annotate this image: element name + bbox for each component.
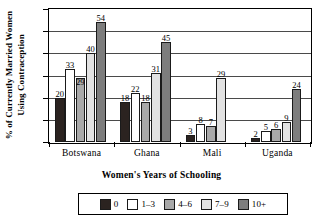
bar-value-label: 3 (188, 127, 192, 136)
legend-item[interactable]: 7–9 (201, 199, 229, 210)
bar: 8 (196, 124, 206, 142)
legend-swatch (164, 199, 175, 210)
x-tick-mark (180, 142, 181, 147)
legend-swatch (100, 199, 111, 210)
bar: 20 (55, 98, 65, 142)
legend-label: 10+ (252, 199, 266, 209)
bar-chart-figure: % of Currently Married Women Using Contr… (0, 0, 323, 223)
legend-swatch (201, 199, 212, 210)
bar: 54 (96, 22, 106, 142)
bar: 24 (292, 89, 302, 142)
legend-swatch (127, 199, 138, 210)
y-axis-title-line-2: Using Contraception (15, 11, 27, 139)
x-category-label: Botswana (62, 148, 101, 158)
bar-value-label: 18 (141, 94, 150, 103)
bar: 29 (76, 78, 86, 142)
x-tick-mark (245, 142, 246, 147)
legend-label: 0 (114, 199, 119, 209)
legend-item[interactable]: 10+ (238, 199, 266, 210)
bar: 31 (151, 73, 161, 142)
bar-value-label: 31 (152, 65, 161, 74)
bar: 9 (282, 122, 292, 142)
bar-value-label: 45 (162, 34, 171, 43)
bar: 29 (216, 78, 226, 142)
bar-group: 2033294054 (55, 9, 106, 142)
bar-value-label: 29 (76, 78, 85, 87)
legend-label: 7–9 (215, 199, 229, 209)
bar-value-label: 29 (217, 70, 226, 79)
bar-value-label: 40 (86, 45, 95, 54)
bars-layer: 2033294054182218314538729256924 (49, 9, 310, 142)
bar: 5 (261, 131, 271, 142)
bar: 6 (271, 129, 281, 142)
legend-item[interactable]: 0 (100, 199, 119, 210)
legend-label: 4–6 (178, 199, 192, 209)
bar-value-label: 2 (253, 130, 257, 139)
bar-value-label: 54 (97, 14, 106, 23)
legend: 01–34–67–910+ (78, 193, 288, 215)
bar: 2 (251, 138, 261, 142)
bar: 18 (141, 102, 151, 142)
x-tick-mark (114, 142, 115, 147)
legend-item[interactable]: 4–6 (164, 199, 192, 210)
x-category-label: Mali (203, 148, 222, 158)
legend-item[interactable]: 1–3 (127, 199, 155, 210)
bar: 22 (131, 93, 141, 142)
bar: 3 (186, 135, 196, 142)
legend-swatch (238, 199, 249, 210)
bar: 45 (161, 42, 171, 142)
bar-group: 256924 (251, 9, 302, 142)
bar-value-label: 6 (274, 121, 278, 130)
bar-value-label: 33 (66, 61, 75, 70)
bar-value-label: 5 (264, 123, 268, 132)
bar: 7 (206, 126, 216, 142)
x-category-label: Ghana (134, 148, 160, 158)
x-tick-mark (310, 142, 311, 147)
y-axis-title: % of Currently Married Women Using Contr… (0, 0, 30, 150)
bar-value-label: 7 (209, 118, 213, 127)
bar-value-label: 24 (292, 81, 301, 90)
bar: 40 (86, 53, 96, 142)
bar-value-label: 18 (121, 94, 130, 103)
bar: 33 (65, 69, 75, 142)
y-axis-title-line-1: % of Currently Married Women (4, 11, 16, 139)
legend-label: 1–3 (141, 199, 155, 209)
legend-title: Women's Years of Schooling (0, 170, 323, 180)
x-tick-mark (49, 142, 50, 147)
bar-value-label: 22 (131, 85, 140, 94)
bar-value-label: 8 (198, 116, 202, 125)
bar-group: 1822183145 (120, 9, 171, 142)
x-category-label: Uganda (262, 148, 293, 158)
bar-value-label: 20 (56, 90, 65, 99)
bar-value-label: 9 (284, 114, 288, 123)
bar: 18 (120, 102, 130, 142)
bar-group: 38729 (186, 9, 237, 142)
